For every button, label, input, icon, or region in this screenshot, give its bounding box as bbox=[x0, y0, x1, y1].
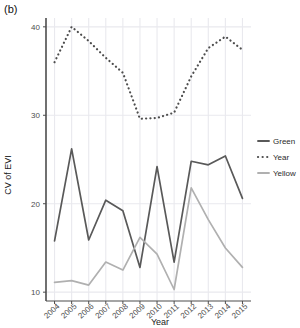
x-tick-label: 2005 bbox=[59, 301, 79, 320]
chart-plot: 10203040 2004200520062007200820092010201… bbox=[0, 0, 300, 328]
legend-label-green: Green bbox=[273, 137, 295, 146]
x-tick-label: 2013 bbox=[196, 301, 216, 320]
x-tick-label: 2006 bbox=[76, 301, 96, 320]
y-axis: 10203040 bbox=[31, 18, 46, 301]
y-tick-label: 20 bbox=[31, 200, 40, 209]
x-tick-label: 2012 bbox=[179, 301, 199, 320]
y-tick-label: 40 bbox=[31, 23, 40, 32]
x-tick-label: 2014 bbox=[213, 301, 233, 320]
y-axis-title: CV of EVI bbox=[3, 155, 13, 195]
x-tick-label: 2008 bbox=[111, 301, 131, 320]
legend-label-year: Year bbox=[273, 153, 290, 162]
x-axis: 2004200520062007200820092010201120122013… bbox=[42, 301, 251, 320]
legend-label-yellow: Yellow bbox=[273, 169, 296, 178]
chart-legend: GreenYearYellow bbox=[258, 137, 296, 178]
x-tick-label: 2015 bbox=[230, 301, 250, 320]
x-tick-label: 2004 bbox=[42, 301, 62, 320]
x-tick-label: 2007 bbox=[93, 301, 113, 320]
figure-container: (b) 10203040 200420052006200720082009201… bbox=[0, 0, 300, 328]
x-tick-label: 2009 bbox=[128, 301, 148, 320]
y-tick-label: 30 bbox=[31, 111, 40, 120]
x-axis-title: Year bbox=[151, 317, 169, 327]
y-tick-label: 10 bbox=[31, 288, 40, 297]
